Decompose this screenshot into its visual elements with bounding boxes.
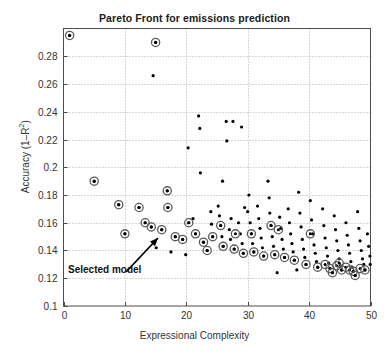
svg-text:10: 10 <box>120 310 132 321</box>
svg-text:0.22: 0.22 <box>38 135 58 146</box>
data-points <box>68 34 372 277</box>
selected-model-annotation: Selected model <box>68 264 141 275</box>
svg-text:40: 40 <box>304 310 316 321</box>
svg-text:0.28: 0.28 <box>38 51 58 62</box>
svg-text:50: 50 <box>366 310 378 321</box>
svg-text:20: 20 <box>181 310 193 321</box>
svg-text:0.2: 0.2 <box>44 162 58 173</box>
svg-text:0.26: 0.26 <box>38 79 58 90</box>
svg-text:0: 0 <box>62 310 68 321</box>
chart-figure: Pareto Front for emissions prediction Ex… <box>0 0 389 356</box>
pareto-markers <box>66 31 370 279</box>
svg-text:0.1: 0.1 <box>44 301 58 312</box>
svg-text:30: 30 <box>243 310 255 321</box>
svg-text:0.12: 0.12 <box>38 273 58 284</box>
svg-text:0.24: 0.24 <box>38 107 58 118</box>
scatter-plot: 010203040500.10.120.140.160.180.20.220.2… <box>0 0 389 356</box>
svg-text:0.16: 0.16 <box>38 218 58 229</box>
svg-text:0.14: 0.14 <box>38 245 58 256</box>
tick-labels: 010203040500.10.120.140.160.180.20.220.2… <box>38 51 377 321</box>
svg-text:0.18: 0.18 <box>38 190 58 201</box>
